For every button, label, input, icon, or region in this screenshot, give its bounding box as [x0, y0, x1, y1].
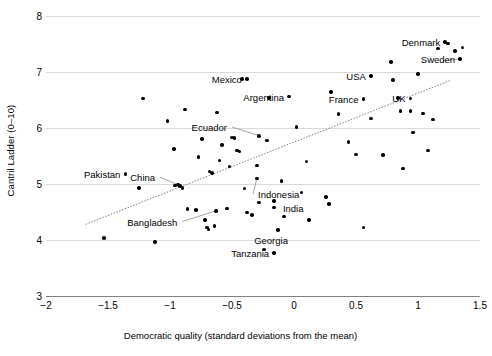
data-point — [265, 139, 269, 143]
data-point — [347, 140, 351, 144]
data-point-usa — [369, 74, 373, 78]
data-point — [228, 165, 232, 169]
data-point — [233, 136, 237, 140]
data-point — [426, 149, 430, 153]
gridline — [46, 128, 480, 129]
data-point — [282, 215, 286, 219]
data-point — [172, 147, 176, 151]
point-label-mexico: Mexico — [212, 73, 242, 84]
data-point — [166, 119, 170, 123]
data-point — [197, 155, 201, 159]
x-tick-label: −2 — [26, 300, 66, 311]
data-point — [411, 131, 415, 135]
data-point — [203, 218, 207, 222]
data-point — [210, 171, 214, 175]
data-point-georgia — [276, 228, 280, 232]
data-point — [280, 179, 284, 183]
y-tick-label: 4 — [6, 235, 42, 246]
data-point — [153, 240, 157, 244]
point-label-usa: USA — [346, 70, 366, 81]
data-point — [220, 143, 224, 147]
data-point — [245, 211, 249, 215]
point-label-pakistan: Pakistan — [84, 168, 120, 179]
data-point — [218, 159, 222, 163]
data-point — [391, 78, 395, 82]
x-axis-line — [46, 296, 480, 297]
data-point — [421, 112, 425, 116]
data-point — [389, 60, 393, 64]
x-axis-tick-labels: −2−1.5−1−0.500.511.5 — [46, 300, 480, 316]
data-point — [141, 97, 145, 101]
data-point — [369, 117, 373, 121]
x-tick-label: 0.5 — [336, 300, 376, 311]
y-tick-label: 6 — [6, 123, 42, 134]
data-point-argentina — [287, 95, 291, 99]
data-point — [300, 191, 304, 195]
x-tick-label: 0 — [274, 300, 314, 311]
x-tick-label: −1.5 — [88, 300, 128, 311]
data-point — [324, 195, 328, 199]
data-point — [181, 186, 185, 190]
data-point — [401, 167, 405, 171]
point-label-france: France — [329, 93, 359, 104]
point-label-india: India — [283, 202, 304, 213]
y-tick-label: 8 — [6, 11, 42, 22]
data-point — [137, 186, 141, 190]
data-point — [461, 46, 465, 50]
data-point — [399, 109, 403, 113]
data-point — [327, 202, 331, 206]
plot-area: PakistanChinaBangladeshMexicoEcuadorIndo… — [46, 16, 480, 296]
point-label-argentina: Argentina — [243, 91, 284, 102]
data-point-bangladesh — [214, 209, 218, 213]
data-point-mexico — [245, 77, 249, 81]
data-point — [243, 187, 247, 191]
data-point — [337, 112, 341, 116]
data-point — [186, 207, 190, 211]
data-point — [431, 118, 435, 122]
data-point-ecuador — [257, 134, 261, 138]
point-label-tanzania: Tanzania — [231, 247, 269, 258]
data-point — [362, 226, 366, 230]
x-axis-title: Democratic quality (standard deviations … — [0, 330, 481, 341]
y-tick-label: 5 — [6, 179, 42, 190]
data-point — [183, 108, 187, 112]
data-point-sweden — [458, 57, 462, 61]
gridline — [46, 16, 480, 17]
point-label-indonesia: Indonesia — [258, 189, 299, 200]
point-label-denmark: Denmark — [402, 36, 441, 47]
data-point — [409, 109, 413, 113]
data-point — [305, 160, 309, 164]
data-point — [453, 49, 457, 53]
data-point — [194, 208, 198, 212]
data-point — [295, 125, 299, 129]
data-point-uk — [409, 97, 413, 101]
data-point-france — [362, 97, 366, 101]
gridline — [46, 184, 480, 185]
data-point-india — [272, 206, 276, 210]
data-point-denmark — [443, 40, 447, 44]
point-label-china: China — [130, 172, 155, 183]
data-point — [416, 72, 420, 76]
data-point — [250, 213, 254, 217]
point-label-sweden: Sweden — [421, 54, 455, 65]
point-label-uk: UK — [392, 93, 405, 104]
x-tick-label: 1.5 — [460, 300, 492, 311]
data-point — [307, 218, 311, 222]
data-point-indonesia — [255, 177, 259, 181]
data-point — [215, 111, 219, 115]
data-point — [200, 137, 204, 141]
point-label-georgia: Georgia — [254, 235, 288, 246]
point-label-ecuador: Ecuador — [192, 121, 227, 132]
data-point — [354, 153, 358, 157]
data-point-tanzania — [272, 251, 276, 255]
data-point — [225, 207, 229, 211]
y-tick-label: 7 — [6, 67, 42, 78]
data-point-pakistan — [124, 172, 128, 176]
x-tick-label: −0.5 — [212, 300, 252, 311]
data-point — [213, 224, 217, 228]
x-tick-label: 1 — [398, 300, 438, 311]
data-point — [102, 236, 106, 240]
x-tick-label: −1 — [150, 300, 190, 311]
data-point — [207, 228, 211, 232]
